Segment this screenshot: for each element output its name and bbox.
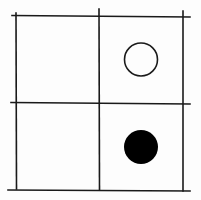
grid-line-top (12, 16, 190, 18)
filled-circle-icon (124, 130, 158, 164)
hollow-circle-icon (125, 43, 158, 76)
grid-line-middle-vertical (99, 9, 100, 190)
grid-line-middle-horizontal (11, 103, 190, 105)
grid-line-left (16, 13, 17, 189)
grid-diagram (0, 0, 201, 200)
